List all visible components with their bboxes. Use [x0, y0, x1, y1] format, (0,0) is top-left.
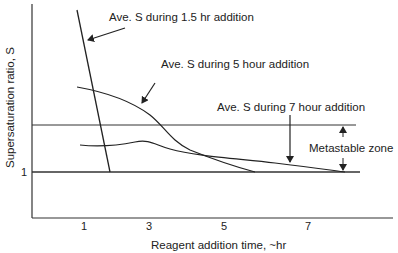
arrow-1-5hr	[88, 28, 125, 40]
chart-canvas: Ave. S during 1.5 hr addition Ave. S dur…	[0, 0, 398, 253]
xtick-1: 1	[81, 220, 87, 232]
x-axis-title: Reagent addition time, ~hr	[151, 239, 286, 251]
arrow-5hr	[142, 83, 155, 103]
label-7hr: Ave. S during 7 hour addition	[217, 101, 365, 113]
label-metastable: Metastable zone	[309, 142, 393, 154]
xtick-7: 7	[305, 220, 311, 232]
ytick-1: 1	[21, 166, 27, 178]
xtick-3: 3	[146, 220, 152, 232]
curve-7hr	[80, 141, 345, 172]
label-5hr: Ave. S during 5 hour addition	[161, 58, 309, 70]
label-1-5hr: Ave. S during 1.5 hr addition	[109, 11, 254, 23]
curve-5hr	[77, 87, 255, 172]
xtick-5: 5	[221, 220, 227, 232]
y-axis-title: Supersaturation ratio, S	[4, 47, 16, 168]
